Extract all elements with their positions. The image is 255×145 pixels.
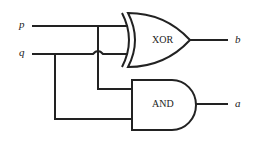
output-label-a: a (235, 97, 241, 109)
xor-gate-back-curve (122, 13, 129, 67)
and-gate-label: AND (152, 98, 174, 109)
wire-q-branch (55, 54, 132, 119)
output-label-b: b (235, 33, 241, 45)
input-label-q: q (19, 46, 25, 58)
input-label-p: p (19, 18, 25, 30)
wire-q (32, 51, 128, 54)
xor-gate-label: XOR (152, 34, 173, 45)
circuit-diagram (0, 0, 255, 145)
